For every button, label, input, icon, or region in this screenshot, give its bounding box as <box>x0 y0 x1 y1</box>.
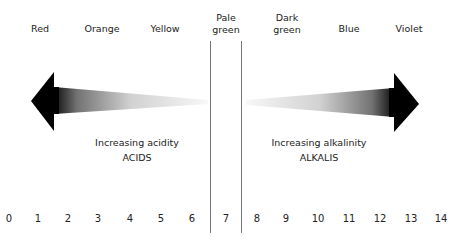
ph-value: 6 <box>189 213 195 224</box>
ph-value: 9 <box>283 213 289 224</box>
ph-value: 1 <box>35 213 41 224</box>
ph-value: 3 <box>95 213 101 224</box>
acid-caption: Increasing acidity ACIDS <box>95 135 179 165</box>
ph-value: 2 <box>65 213 71 224</box>
ph-value: 11 <box>343 213 356 224</box>
alkali-caption: Increasing alkalinity ALKALIS <box>272 135 367 165</box>
ph-value: 14 <box>435 213 448 224</box>
acid-arrow-icon <box>31 72 208 131</box>
acid-caption-line2: ACIDS <box>95 150 179 165</box>
alkali-caption-line2: ALKALIS <box>272 150 367 165</box>
ph-value: 8 <box>254 213 260 224</box>
alkali-caption-line1: Increasing alkalinity <box>272 135 367 150</box>
ph-value: 0 <box>6 213 12 224</box>
alkali-arrow-icon <box>246 73 419 132</box>
ph-value: 4 <box>127 213 133 224</box>
ph-value: 12 <box>374 213 387 224</box>
ph-value: 7 <box>223 213 229 224</box>
ph-value: 10 <box>312 213 325 224</box>
acid-caption-line1: Increasing acidity <box>95 135 179 150</box>
ph-value: 13 <box>405 213 418 224</box>
acid-alkali-arrows <box>0 0 460 242</box>
ph-value: 5 <box>158 213 164 224</box>
